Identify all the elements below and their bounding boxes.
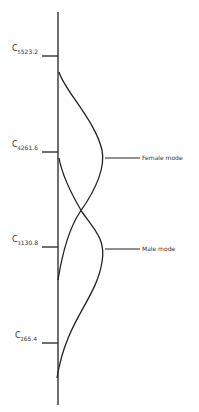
frequency-value: 130.8 xyxy=(21,239,38,246)
frequency-value: 523.2 xyxy=(21,48,38,55)
female-mode-label: Female mode xyxy=(142,154,183,161)
tick-label-c2: C265.4 xyxy=(15,332,37,342)
tick-label-c5: C5523.2 xyxy=(12,45,38,55)
tick-label-c3: C3130.8 xyxy=(12,236,38,246)
frequency-value: 65.4 xyxy=(24,335,37,342)
frequency-distribution-diagram xyxy=(0,0,199,412)
male-mode-label: Male mode xyxy=(142,245,175,252)
male-mode-curve xyxy=(57,158,103,378)
frequency-value: 261.6 xyxy=(21,144,38,151)
tick-label-c4: C4261.6 xyxy=(12,141,38,151)
